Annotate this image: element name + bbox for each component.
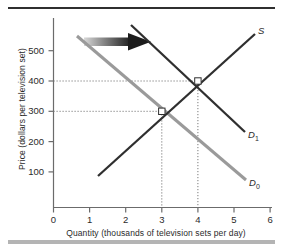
- x-tick-label-2: 2: [119, 214, 133, 225]
- demand-new-curve-label-sub: 1: [255, 135, 259, 142]
- equilibrium-guidelines: [54, 81, 198, 208]
- demand-original-curve-label-text: D: [249, 177, 256, 188]
- supply-curve: [98, 34, 255, 176]
- supply-curve-label-text: S: [258, 25, 264, 36]
- x-axis-ticks: [54, 208, 271, 213]
- y-axis-ticks: [49, 51, 54, 172]
- y-axis-title: Price (dollars per television set): [17, 34, 27, 184]
- demand-new-curve-label: D1: [248, 129, 259, 142]
- supply-demand-figure: 500 400 300 200 100 0 1 2 3 4 5 6 Price …: [0, 0, 283, 250]
- x-tick-label-5: 5: [227, 214, 241, 225]
- chart-plot-area: [0, 0, 283, 250]
- demand-original-curve-label-sub: 0: [256, 183, 260, 190]
- demand-new-curve-label-text: D: [248, 129, 255, 140]
- x-tick-label-6: 6: [263, 214, 277, 225]
- x-axis-title: Quantity (thousands of television sets p…: [40, 228, 272, 238]
- demand-curve-new: [131, 25, 245, 132]
- demand-original-curve-label: D0: [249, 177, 260, 190]
- x-tick-label-0: 0: [47, 214, 61, 225]
- x-tick-label-3: 3: [155, 214, 169, 225]
- x-tick-label-4: 4: [191, 214, 205, 225]
- original-equilibrium-marker: [159, 108, 165, 114]
- new-equilibrium-marker: [195, 78, 201, 84]
- x-tick-label-1: 1: [83, 214, 97, 225]
- supply-curve-label: S: [258, 25, 264, 36]
